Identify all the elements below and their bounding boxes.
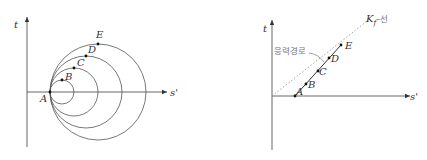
point-a <box>49 91 52 94</box>
label-c: C <box>77 57 85 68</box>
label-d: D <box>87 44 96 55</box>
label-a: A <box>39 93 47 104</box>
point-c <box>73 67 76 70</box>
label-a: A <box>295 86 303 97</box>
s-prime-axis-label: s' <box>170 87 178 98</box>
label-c: C <box>319 66 327 77</box>
stress-path-diagrams: t s' A B C D E t s' Kf–선 A B C D E <box>0 0 427 160</box>
kf-line-label: Kf–선 <box>365 13 388 27</box>
t-axis-label: t <box>14 19 19 30</box>
point-d <box>85 55 88 58</box>
stress-path-diagram: t s' Kf–선 A B C D E 응력경로 <box>263 13 418 150</box>
label-e: E <box>95 29 104 40</box>
point-e <box>340 44 343 47</box>
point-e <box>97 43 100 46</box>
mohr-circle-diagram: t s' A B C D E <box>14 17 178 147</box>
s-prime-axis-label: s' <box>410 91 418 102</box>
label-e: E <box>344 40 353 51</box>
label-b: B <box>64 71 72 82</box>
kf-line <box>272 18 371 96</box>
point-b <box>305 83 308 86</box>
label-d: D <box>330 53 339 64</box>
t-axis-label: t <box>263 23 268 34</box>
point-b <box>61 79 64 82</box>
stress-path-label: 응력경로 <box>274 46 306 56</box>
point-d <box>328 57 331 60</box>
label-b: B <box>307 79 315 90</box>
